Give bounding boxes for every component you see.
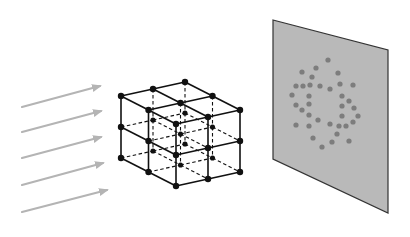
beam-arrow <box>22 86 100 107</box>
diffraction-spot <box>306 112 311 117</box>
diffraction-spot <box>310 135 315 140</box>
lattice-hidden-edge <box>213 158 241 172</box>
diffraction-spot <box>346 138 351 143</box>
lattice-atom <box>182 110 187 115</box>
lattice-atom <box>118 155 124 161</box>
diffraction-spot <box>339 113 344 118</box>
diffraction-spot <box>293 122 298 127</box>
beam-arrow <box>22 137 101 158</box>
lattice-atom <box>118 124 124 130</box>
lattice-atom <box>173 152 179 158</box>
lattice-edge <box>121 96 149 110</box>
screen-plate <box>273 20 388 213</box>
lattice-atom <box>178 131 183 136</box>
lattice-atom <box>210 124 215 129</box>
diffraction-spot <box>317 83 322 88</box>
lattice-edge <box>213 96 241 110</box>
lattice-edge <box>153 89 181 103</box>
lattice-atoms <box>118 79 243 189</box>
diffraction-spot <box>299 69 304 74</box>
lattice-edge <box>185 82 213 96</box>
diffraction-spot <box>346 98 351 103</box>
diffraction-spot <box>315 117 320 122</box>
lattice-atom <box>205 176 211 182</box>
lattice-edge <box>121 89 153 96</box>
diffraction-spot <box>355 113 360 118</box>
lattice-atom <box>210 155 215 160</box>
lattice-edge <box>208 172 240 179</box>
diffraction-spot <box>307 82 312 87</box>
diffraction-spot <box>351 105 356 110</box>
diffraction-spot <box>337 81 342 86</box>
lattice-atom <box>182 141 187 146</box>
diffraction-spot <box>306 123 311 128</box>
diffraction-spot <box>306 93 311 98</box>
diffraction-spot <box>327 86 332 91</box>
diffraction-spot <box>309 74 314 79</box>
lattice-edge <box>153 82 185 89</box>
diffraction-spot <box>300 83 305 88</box>
diffraction-spot <box>339 93 344 98</box>
detector-screen <box>273 20 388 213</box>
diagram-canvas <box>0 0 410 237</box>
lattice-atom <box>237 169 243 175</box>
diffraction-spot <box>327 121 332 126</box>
lattice-atom <box>205 145 211 151</box>
diffraction-spot <box>299 107 304 112</box>
lattice-atom <box>177 100 183 106</box>
lattice-atom <box>145 169 151 175</box>
lattice-atom <box>118 93 124 99</box>
lattice-atom <box>173 121 179 127</box>
lattice-atom <box>237 138 243 144</box>
lattice-atom <box>150 86 156 92</box>
lattice-edge <box>149 172 177 186</box>
crystal-lattice <box>118 79 243 189</box>
lattice-edge <box>121 127 149 141</box>
diffraction-spot <box>319 144 324 149</box>
lattice-atom <box>150 117 155 122</box>
lattice-edge <box>176 179 208 186</box>
diffraction-spot <box>306 101 311 106</box>
lattice-atom <box>205 114 211 120</box>
lattice-atom <box>182 79 188 85</box>
beam-arrow <box>22 163 103 185</box>
beam-arrow <box>22 111 101 132</box>
diffraction-spot <box>334 131 339 136</box>
diffraction-diagram <box>0 0 410 237</box>
lattice-atom <box>209 93 215 99</box>
diffraction-spot <box>339 103 344 108</box>
lattice-atom <box>145 138 151 144</box>
diffraction-spot <box>336 123 341 128</box>
beam-arrow <box>22 190 107 212</box>
lattice-atom <box>150 148 155 153</box>
diffraction-spot <box>329 139 334 144</box>
diffraction-spot <box>343 123 348 128</box>
lattice-atom <box>237 107 243 113</box>
lattice-hidden-edge <box>181 165 209 179</box>
diffraction-spot <box>335 70 340 75</box>
lattice-atom <box>173 183 179 189</box>
diffraction-spot <box>350 82 355 87</box>
diffraction-spot <box>289 92 294 97</box>
lattice-hidden-edge <box>213 127 241 141</box>
lattice-edge <box>121 158 149 172</box>
diffraction-spot <box>325 57 330 62</box>
lattice-atom <box>178 162 183 167</box>
diffraction-spot <box>313 65 318 70</box>
lattice-atom <box>145 107 151 113</box>
diffraction-spot <box>350 119 355 124</box>
incident-beam-arrows <box>22 86 107 212</box>
diffraction-spot <box>293 102 298 107</box>
diffraction-spot <box>293 83 298 88</box>
